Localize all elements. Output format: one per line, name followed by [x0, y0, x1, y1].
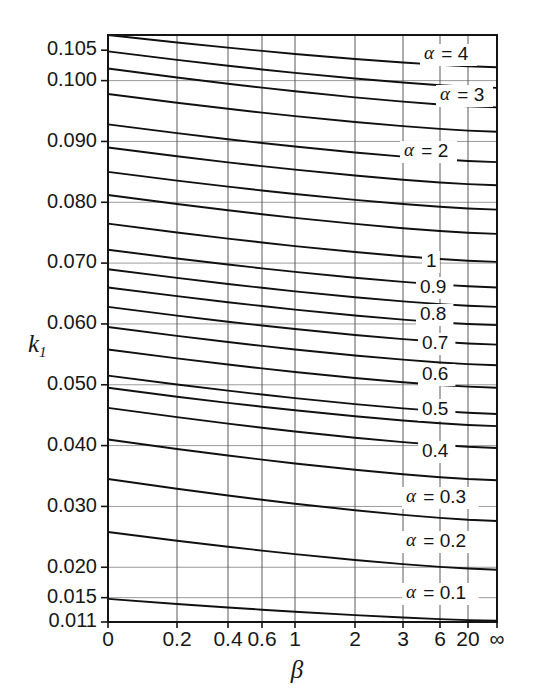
x-axis-title: β — [290, 656, 304, 683]
y-tick-label: 0.070 — [47, 250, 97, 272]
curve-label: 1 — [426, 250, 437, 271]
y-tick-label: 0.020 — [47, 555, 97, 577]
y-tick-label: 0.050 — [47, 372, 97, 394]
x-tick-label: 3 — [397, 627, 409, 650]
chart-container: 0.1050.1000.0900.0800.0700.0600.0500.040… — [0, 0, 534, 696]
curve-label: α = 0.1 — [406, 581, 466, 603]
y-tick-label: 0.040 — [47, 433, 97, 455]
y-tick-label: 0.105 — [47, 37, 97, 59]
curve-label: 0.4 — [422, 440, 449, 461]
y-tick-label: 0.080 — [47, 190, 97, 212]
curve-label: α = 0.3 — [406, 485, 466, 507]
curve-label: α = 0.2 — [406, 529, 466, 551]
curve-label: α = 2 — [404, 139, 448, 161]
y-tick-label: 0.060 — [47, 311, 97, 333]
curve-label: α = 4 — [424, 42, 469, 64]
x-tick-label: 2 — [349, 627, 361, 650]
x-tick-label: 1 — [289, 627, 301, 650]
x-tick-label: 0.4 — [213, 627, 243, 650]
curve-label: 0.9 — [420, 276, 446, 297]
curve-label: 0.7 — [422, 332, 448, 353]
y-tick-label: 0.011 — [48, 609, 97, 631]
y-tick-label: 0.030 — [47, 494, 97, 516]
y-tick-label: 0.100 — [47, 68, 97, 90]
y-tick-label: 0.090 — [47, 129, 97, 151]
curve-label: 0.5 — [422, 398, 448, 419]
curve-label: α = 3 — [440, 83, 484, 105]
x-tick-label: 6 — [434, 627, 446, 650]
curve-label: 0.8 — [420, 303, 446, 324]
x-tick-label: 0 — [102, 627, 114, 650]
curve-label: 0.6 — [422, 363, 448, 384]
k1-beta-nomogram: 0.1050.1000.0900.0800.0700.0600.0500.040… — [0, 0, 534, 696]
x-tick-label: 20 — [456, 627, 479, 650]
y-tick-label: 0.015 — [47, 585, 97, 607]
x-tick-label: 0.6 — [247, 627, 276, 650]
x-tick-label: 0.2 — [162, 627, 191, 650]
x-tick-label: ∞ — [490, 627, 505, 650]
